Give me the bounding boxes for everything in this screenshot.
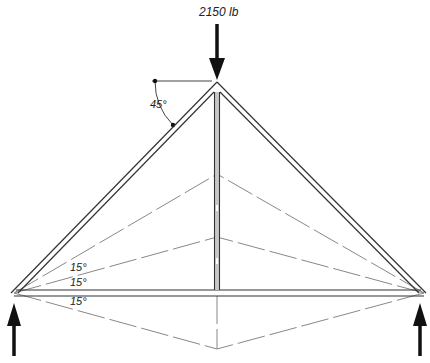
right-15deg-line xyxy=(217,237,424,293)
arc-start-dot xyxy=(153,79,157,83)
angle-15-middle-label: 15° xyxy=(70,276,87,288)
left-30deg-line xyxy=(14,174,217,293)
angle-15-lower-label: 15° xyxy=(70,295,87,307)
angle-15-upper-label: 15° xyxy=(70,261,87,273)
right-30deg-line xyxy=(217,174,424,293)
right-below-line xyxy=(217,293,424,349)
truss-diagram: 2150 lb 45° 15° 15° 15° xyxy=(0,0,430,363)
load-arrow-icon xyxy=(209,24,225,80)
left-below-line xyxy=(14,293,217,349)
angle-45-label: 45° xyxy=(150,98,167,110)
left-rafter-outer xyxy=(11,82,217,293)
right-rafter-outer xyxy=(217,82,426,293)
right-reaction-arrow-icon xyxy=(413,303,427,356)
left-15deg-line xyxy=(14,237,217,293)
load-label: 2150 lb xyxy=(198,5,239,19)
king-post xyxy=(215,92,220,290)
left-reaction-arrow-icon xyxy=(7,303,21,356)
